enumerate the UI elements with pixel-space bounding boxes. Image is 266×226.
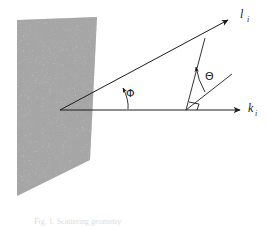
l-ray-label-subscript: i — [247, 15, 249, 24]
scatter-normal-line — [186, 38, 205, 110]
l-ray-label-main: l — [240, 7, 244, 21]
theta-angle-label: Θ — [205, 70, 214, 83]
stippled-plane — [17, 17, 97, 196]
figure-caption: Fig. 1. Scattering geometry — [34, 217, 224, 226]
scattering-geometry-diagram: l i k i Φ Θ — [0, 0, 266, 226]
k-ray-label: k i — [248, 101, 257, 118]
phi-angle-label: Φ — [126, 87, 135, 100]
k-ray-label-subscript: i — [255, 109, 257, 118]
figure-container: l i k i Φ Θ Fig. 1. Scattering geometry — [0, 0, 266, 226]
l-ray-label: l i — [240, 7, 249, 24]
theta-angle-arc — [196, 67, 205, 92]
k-ray-label-main: k — [248, 101, 254, 115]
